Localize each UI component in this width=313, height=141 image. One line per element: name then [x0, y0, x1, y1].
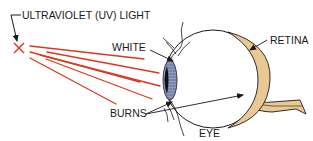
uv-eye-diagram: ULTRAVIOLET (UV) LIGHT WHITE RETINA BURN…: [0, 0, 313, 141]
uv-label-leader-arrow: [11, 15, 21, 41]
diagram-svg: ULTRAVIOLET (UV) LIGHT WHITE RETINA BURN…: [0, 0, 313, 141]
eye-label: EYE: [199, 127, 220, 139]
retina-label: RETINA: [270, 34, 309, 46]
uv-source-x-icon: [14, 43, 24, 53]
burns-label: BURNS: [110, 107, 147, 119]
uv-light-label: ULTRAVIOLET (UV) LIGHT: [22, 9, 151, 21]
uv-rays: [30, 46, 160, 104]
white-label: WHITE: [112, 41, 146, 53]
burns-arrow-front: [146, 102, 172, 114]
